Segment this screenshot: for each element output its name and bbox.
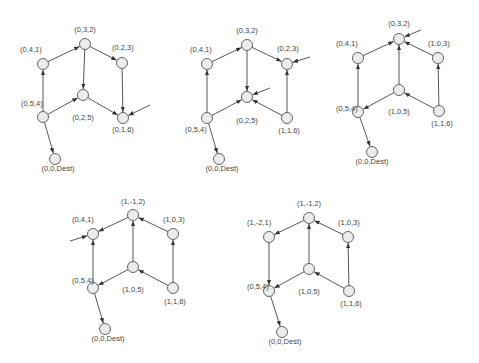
node-d2-n025 [242,92,253,103]
node-d2-n041 [202,59,213,70]
node-d5-n103 [343,232,354,243]
node-label: (1,0,3) [428,39,450,48]
edge-n116-to-n103 [438,64,439,106]
node-label: (0,4,1) [20,45,42,54]
node-label: (0,0,Dest) [42,164,75,173]
node-label: (0,4,1) [72,215,94,224]
node-d3-n041 [353,53,364,64]
edge-n116-to-n103 [348,243,349,286]
edge-n041-to-n032 [212,48,242,62]
node-d1-ndest [50,154,61,165]
edge-n054-to-ndest [95,293,104,323]
node-label: (0,1,6) [112,125,134,134]
external-arrow-n016 [128,105,150,115]
external-arrow-n032 [405,30,421,37]
node-d3-n116 [434,106,445,117]
edge-n054-to-n025 [48,98,78,114]
edge-n054-to-n025 [212,100,242,116]
diagram-canvas: (0,3,2)(0,4,1)(0,2,3)(0,2,5)(0,5,4)(0,1,… [0,0,479,363]
external-arrow-n041 [70,236,87,241]
node-label: (0,2,5) [236,116,258,125]
edge-n105-to-n054 [274,272,304,288]
edge-n041-to-n032 [48,47,80,62]
external-arrow-n025 [253,88,270,95]
node-label: (1,-1,2) [121,197,146,206]
node-label: (0,0,Dest) [206,164,239,173]
node-d1-n054 [38,112,49,123]
node-d2-n116 [282,113,293,124]
node-label: (0,2,5) [72,113,94,122]
node-d5-n1m21 [264,232,275,243]
edge-n054-to-ndest [209,123,218,153]
node-d4-ndest [100,324,111,335]
node-label: (0,4,1) [190,45,212,54]
node-d5-n1m12 [304,213,315,224]
node-label: (1,-2,1) [247,218,272,227]
node-label: (0,0,Dest) [356,157,389,166]
node-label: (0,0,Dest) [92,334,125,343]
node-label: (0,0,Dest) [269,337,302,346]
node-d4-n103 [168,229,179,240]
node-d2-n023 [282,59,293,70]
node-d5-n105 [304,264,315,275]
node-label: (0,5,4) [336,104,358,113]
edge-n054-to-ndest [45,122,54,153]
node-d3-ndest [367,147,378,158]
node-label: (0,2,3) [112,43,134,52]
edge-n054-to-ndest [271,296,281,326]
node-d3-n105 [394,85,405,96]
node-d3-n032 [394,34,405,45]
edge-n116-to-n025 [252,100,282,116]
edge-n023-to-n016 [122,68,123,112]
node-label: (1,1,6) [431,119,453,128]
node-label: (0,3,2) [388,19,410,28]
node-d4-n1m12 [128,210,139,221]
node-d1-n025 [78,90,89,101]
node-label: (1,0,5) [122,285,144,294]
node-label: (1,-1,2) [297,199,322,208]
edge-n041-to-n032 [363,42,394,56]
node-label: (0,4,1) [336,39,358,48]
node-label: (0,5,4) [247,282,269,291]
node-d4-n105 [128,262,139,273]
node-d5-ndest [277,327,288,338]
node-d1-n016 [118,113,129,124]
node-d1-n032 [80,39,91,50]
node-label: (0,5,4) [72,276,94,285]
external-arrow-n023 [293,57,310,62]
node-label: (1,1,6) [340,299,362,308]
edge-n054-to-ndest [360,117,370,146]
node-label: (1,1,6) [278,126,300,135]
node-label: (0,3,2) [74,25,96,34]
node-label: (0,3,2) [236,26,258,35]
node-d3-n103 [433,53,444,64]
node-d1-n023 [117,58,128,69]
node-label: (1,0,5) [298,287,320,296]
node-d4-n041 [88,229,99,240]
node-d4-n116 [168,283,179,294]
edge-n1m12-to-n041 [98,217,128,231]
edge-n1m12-to-n1m21 [274,220,304,234]
node-d2-ndest [214,154,225,165]
edge-n105-to-n054 [98,270,128,286]
node-label: (1,1,6) [164,297,186,306]
node-d2-n032 [242,40,253,51]
node-label: (0,2,3) [277,44,299,53]
node-label: (1,0,3) [163,215,185,224]
node-label: (1,0,3) [338,218,360,227]
node-d5-n116 [344,286,355,297]
node-label: (0,5,4) [21,99,43,108]
node-d1-n041 [38,59,49,70]
edge-n032-to-n025 [83,49,85,89]
edge-n116-to-n105 [314,272,344,288]
edge-n116-to-n105 [138,270,168,286]
node-label: (1,0,5) [388,107,410,116]
node-label: (0,5,4) [185,125,207,134]
node-d2-n054 [202,113,213,124]
